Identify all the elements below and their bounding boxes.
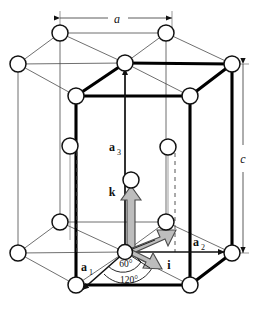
- top-spoke-front-right: [125, 63, 190, 96]
- bold-top-right-edge: [125, 63, 232, 64]
- label-a3: a: [109, 140, 115, 154]
- label-a2-subscript: 2: [201, 243, 205, 252]
- label-a-lattice: a: [114, 12, 120, 26]
- label-k: k: [109, 185, 116, 199]
- top-spoke-left: [18, 63, 125, 64]
- dimension-a: a: [60, 11, 172, 32]
- bold-top-left-diag: [76, 63, 125, 96]
- k-arrow-shape: [121, 186, 141, 248]
- atom-mid-right: [160, 139, 176, 155]
- label-angle-60: 60°: [119, 259, 133, 269]
- atom-mid-left: [62, 138, 78, 154]
- label-a3-subscript: 3: [117, 148, 121, 157]
- label-i: i: [167, 258, 171, 272]
- atom-top-front-right: [182, 88, 198, 104]
- atom-bottom-back-right: [158, 214, 174, 230]
- atom-mid-center: [123, 172, 139, 188]
- hcp-unit-cell-figure: a c: [0, 0, 267, 315]
- atom-bottom-right: [224, 245, 240, 261]
- atom-bottom-front-left: [68, 277, 84, 293]
- label-a1: a: [81, 260, 87, 274]
- atom-bottom-front-right: [182, 277, 198, 293]
- atom-bottom-left: [10, 245, 26, 261]
- label-a2: a: [193, 235, 199, 249]
- atom-top-center: [117, 55, 133, 71]
- label-angle-120: 120°: [120, 275, 138, 285]
- atom-top-left: [10, 56, 26, 72]
- atom-top-back-left: [52, 25, 68, 41]
- hcp-diagram-svg: a c: [0, 0, 267, 315]
- atom-bottom-center-origin: [118, 245, 133, 260]
- dimension-c: c: [232, 64, 249, 253]
- bottom-spoke-left: [18, 252, 125, 253]
- atom-top-right: [224, 56, 240, 72]
- label-a1-subscript: 1: [89, 268, 93, 277]
- atom-top-front-left: [68, 88, 84, 104]
- atom-bottom-back-left: [52, 214, 68, 230]
- label-c-lattice: c: [240, 152, 246, 166]
- atom-top-back-right: [158, 25, 174, 41]
- top-spoke-back-left: [60, 33, 125, 63]
